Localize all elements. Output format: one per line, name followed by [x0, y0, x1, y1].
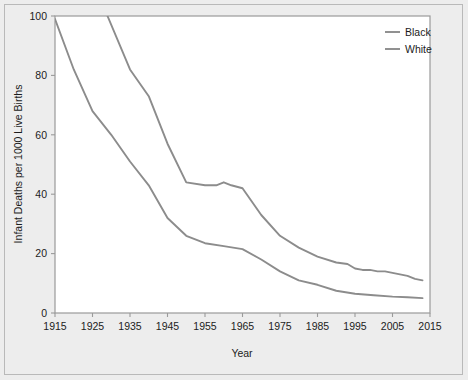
x-axis-ticks: 1915192519351945195519651975198519952005… — [43, 313, 442, 332]
x-tick-label: 1935 — [118, 320, 142, 332]
x-tick-label: 1985 — [306, 320, 330, 332]
x-tick-label: 1995 — [343, 320, 367, 332]
x-tick-label: 1975 — [268, 320, 292, 332]
y-tick-label: 80 — [35, 69, 47, 81]
x-tick-label: 2005 — [381, 320, 405, 332]
x-tick-label: 2015 — [418, 320, 442, 332]
x-tick-label: 1915 — [43, 320, 67, 332]
x-tick-label: 1945 — [156, 320, 180, 332]
y-tick-label: 100 — [29, 10, 47, 22]
y-axis-title: Infant Deaths per 1000 Live Births — [12, 85, 24, 244]
y-tick-label: 60 — [35, 129, 47, 141]
y-axis-ticks: 020406080100 — [29, 10, 55, 319]
chart-figure: 1915192519351945195519651975198519952005… — [0, 0, 468, 380]
x-axis-title: Year — [231, 347, 253, 359]
y-tick-label: 40 — [35, 188, 47, 200]
x-tick-label: 1925 — [81, 320, 105, 332]
y-tick-label: 0 — [41, 307, 47, 319]
legend-label-white: White — [405, 43, 432, 55]
legend-label-black: Black — [405, 26, 431, 38]
y-tick-label: 20 — [35, 247, 47, 259]
plot-background — [55, 16, 430, 313]
x-tick-label: 1955 — [193, 320, 217, 332]
line-chart: 1915192519351945195519651975198519952005… — [0, 0, 468, 380]
x-tick-label: 1965 — [231, 320, 255, 332]
